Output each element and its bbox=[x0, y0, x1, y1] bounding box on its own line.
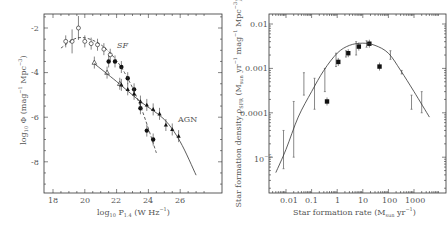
left-ytick-m6: -6 bbox=[31, 113, 39, 122]
sf-open-point bbox=[102, 47, 106, 51]
sf-open-point bbox=[64, 39, 68, 43]
left-ytick-m8: -8 bbox=[31, 158, 39, 167]
sfr-filled-square bbox=[357, 44, 361, 48]
right-xtick-10: 10 bbox=[358, 196, 368, 205]
annotation-sf: SF bbox=[117, 41, 128, 50]
left-xlabel: log10 P1.4 (W Hz−1) bbox=[97, 206, 170, 218]
sfr-filled-square bbox=[336, 60, 340, 64]
sfr-filled-square bbox=[377, 64, 381, 68]
left-xtick-18: 18 bbox=[48, 196, 58, 205]
figure: 18 20 22 24 26 -2 -4 -6 -8 log10 P1.4 (W… bbox=[0, 0, 448, 226]
sf-open-point bbox=[83, 39, 87, 43]
right-frame bbox=[269, 14, 446, 193]
left-xtick-26: 26 bbox=[175, 196, 185, 205]
left-ytick-m2: -2 bbox=[31, 24, 39, 33]
left-xtick-24: 24 bbox=[143, 196, 153, 205]
sfr-filled-square bbox=[346, 51, 350, 55]
sf-filled-point bbox=[106, 59, 110, 63]
agn-filled-point bbox=[126, 87, 130, 91]
left-ytick-m4: -4 bbox=[31, 68, 39, 77]
annotation-agn: AGN bbox=[178, 115, 197, 124]
agn-open-point bbox=[92, 60, 97, 64]
right-ytick-0.01: 0.01 bbox=[250, 20, 268, 29]
right-xtick-0.01: 0.01 bbox=[280, 196, 298, 205]
sf-open-point bbox=[89, 42, 93, 46]
right-xtick-1: 1 bbox=[335, 196, 340, 205]
right-ylabel: Star formation density ρSFR (Msun yr−1 m… bbox=[232, 0, 244, 208]
plots-canvas bbox=[0, 0, 448, 226]
right-xtick-1000: 1000 bbox=[405, 196, 425, 205]
left-ylabel: log10 Φ (mag−1 Mpc−3) bbox=[17, 45, 29, 155]
right-xtick-0.1: 0.1 bbox=[305, 196, 318, 205]
sfr-filled-square bbox=[325, 99, 329, 103]
sfr-fit-curve bbox=[276, 43, 430, 172]
sf-open-point bbox=[76, 26, 80, 30]
left-xtick-22: 22 bbox=[111, 196, 121, 205]
right-xtick-100: 100 bbox=[382, 196, 397, 205]
right-ytick-1e-5: 10−5 bbox=[254, 153, 272, 164]
left-xtick-20: 20 bbox=[80, 196, 90, 205]
right-xlabel: Star formation rate (Msun yr−1) bbox=[293, 206, 416, 218]
right-ytick-0.0001: 0.0001 bbox=[240, 109, 268, 118]
right-ytick-0.001: 0.001 bbox=[245, 64, 268, 73]
